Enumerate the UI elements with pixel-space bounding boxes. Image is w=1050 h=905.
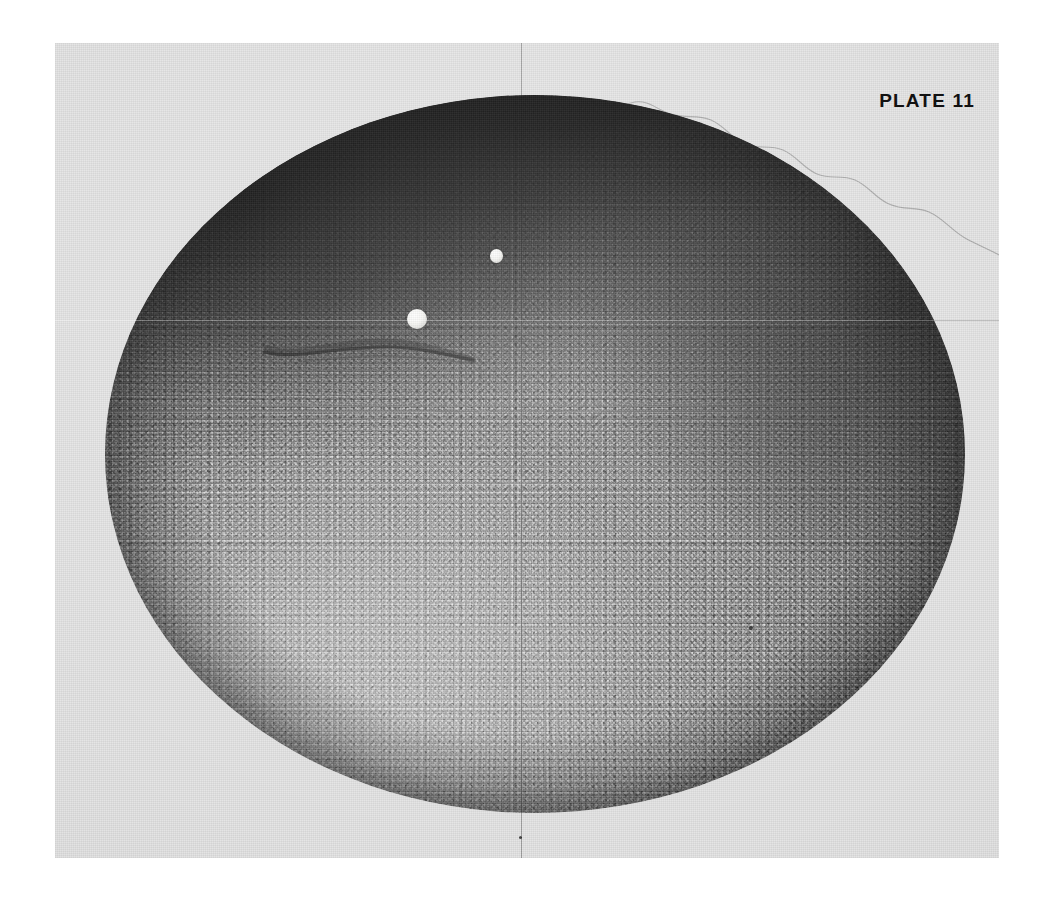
specimen-region <box>105 95 965 813</box>
large-white-inclusion <box>407 309 427 329</box>
specimen-right-limb-shadow <box>105 95 965 813</box>
radial-streak-texture <box>105 95 965 813</box>
small-white-inclusion <box>490 249 503 263</box>
specimen-highlight <box>105 95 965 813</box>
specimen-limb-darkening <box>105 95 965 813</box>
granular-texture-fine <box>105 95 965 813</box>
plate-label: PLATE 11 <box>879 90 975 112</box>
specimen-upper-left-shadow <box>105 95 965 813</box>
granular-texture-coarse <box>105 95 965 813</box>
page-canvas: PLATE 11 <box>0 0 1050 905</box>
specimen-dark-band <box>105 95 965 813</box>
dust-speck-2 <box>519 836 522 839</box>
photographic-plate: PLATE 11 <box>55 43 999 858</box>
elliptical-specimen <box>105 95 965 813</box>
film-noise-texture <box>105 95 965 813</box>
dust-speck-1 <box>749 626 753 630</box>
